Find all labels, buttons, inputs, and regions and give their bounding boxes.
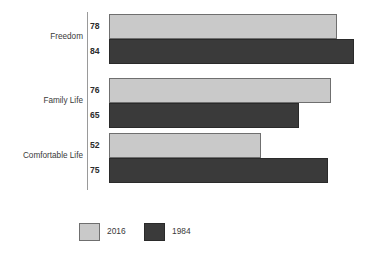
chart-legend: 2016 1984 [0, 221, 376, 249]
bar-value-label: 65 [90, 110, 107, 120]
bar-value-label: 76 [90, 85, 107, 95]
bar-1984[interactable] [109, 158, 328, 183]
bar-2016[interactable] [109, 14, 337, 39]
bar-row: 52 [0, 133, 376, 158]
legend-swatch-icon [144, 223, 165, 241]
bar-1984[interactable] [109, 103, 299, 128]
bar-2016[interactable] [109, 133, 261, 158]
bar-row: 76 [0, 78, 376, 103]
bar-value-label: 84 [90, 46, 107, 56]
bar-group: Family Life 76 65 [0, 78, 376, 128]
plot-area: Freedom 78 84 Family Life 76 65 [0, 0, 376, 200]
bar-value-label: 52 [90, 140, 107, 150]
bar-value-label: 78 [90, 21, 107, 31]
bar-row: 65 [0, 103, 376, 128]
bar-group: Freedom 78 84 [0, 14, 376, 64]
legend-label: 2016 [107, 226, 126, 236]
bar-group: Comfortable Life 52 75 [0, 133, 376, 183]
legend-label: 1984 [172, 226, 191, 236]
bar-1984[interactable] [109, 39, 354, 64]
bar-row: 75 [0, 158, 376, 183]
bar-row: 84 [0, 39, 376, 64]
bar-row: 78 [0, 14, 376, 39]
bar-2016[interactable] [109, 78, 331, 103]
bar-chart: Freedom 78 84 Family Life 76 65 [0, 0, 376, 258]
legend-swatch-icon [79, 223, 100, 241]
bar-value-label: 75 [90, 165, 107, 175]
